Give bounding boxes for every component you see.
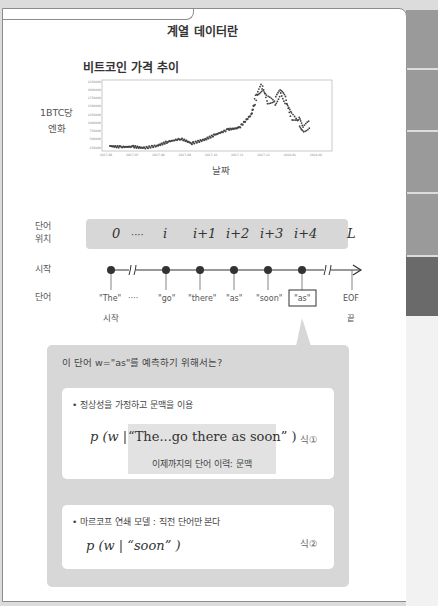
formula-1-prefix: p (w | xyxy=(90,429,127,444)
formula-2: p (w | “soon” ) xyxy=(86,538,181,553)
index-margin xyxy=(406,316,438,606)
context-label: 이제까지의 단어 이력: 문맥 xyxy=(152,457,252,470)
callout-pointer xyxy=(0,0,438,350)
equation-number-2: 식② xyxy=(300,536,318,550)
equation-number-1: 식① xyxy=(300,432,318,446)
markov-bullet: • 마르코프 연쇄 모델 : 직전 단어만 본다 xyxy=(72,515,220,528)
page-tab-notch xyxy=(3,9,194,20)
context-bullet: • 정상성을 가정하고 문맥을 이용 xyxy=(72,398,193,411)
callout-question: 이 단어 w="as"를 예측하기 위해서는? xyxy=(62,355,222,369)
formula-1-context: “The...go there as soon” ) xyxy=(128,429,297,444)
